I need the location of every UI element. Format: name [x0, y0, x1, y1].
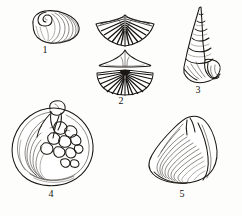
figure-oval-bivalve-shell	[26, 6, 84, 48]
figure-round-bivalve-shell	[6, 100, 102, 192]
figure-label-2: 2	[110, 95, 132, 106]
figure-label-1: 1	[34, 44, 56, 55]
figure-winged-brachiopod-shell	[92, 10, 158, 94]
illustration-plate: 1	[0, 0, 242, 216]
figure-label-3: 3	[187, 84, 209, 95]
figure-label-5: 5	[171, 188, 193, 199]
figure-triangular-venus-clam-shell	[142, 112, 228, 190]
brachiopod-dorsal-valve	[96, 15, 154, 46]
figure-conical-gastropod-shell	[174, 3, 230, 91]
brachiopod-fan-valve	[97, 70, 153, 95]
brachiopod-profile-view	[99, 50, 151, 67]
figure-label-4: 4	[40, 188, 62, 199]
